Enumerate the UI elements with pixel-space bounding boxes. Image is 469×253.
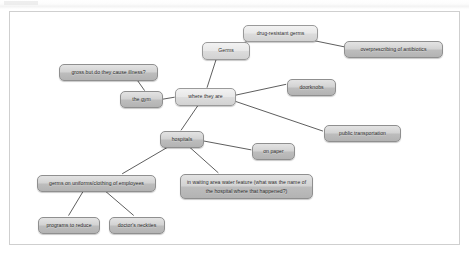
- edge-where_they_are-to-hospitals: [181, 105, 198, 130]
- mind-map-node-germs[interactable]: Germs: [202, 42, 250, 60]
- mind-map-node-programs[interactable]: programs to reduce: [38, 217, 100, 234]
- edge-uniforms-to-neckties: [105, 190, 134, 215]
- edge-hospitals-to-water_feature: [189, 147, 218, 173]
- mind-map-node-overprescribing[interactable]: overprescribing of antibiotics: [344, 41, 443, 58]
- edge-where_they_are-to-doorknobs: [235, 84, 286, 95]
- edge-germs-to-where_they_are: [207, 60, 216, 88]
- edge-hospitals-to-uniforms: [122, 147, 168, 174]
- mind-map-node-on_paper[interactable]: on paper: [252, 143, 295, 160]
- mind-map-node-water_feature[interactable]: in waiting area water feature (what was …: [180, 174, 313, 199]
- mind-map-node-gross_illness[interactable]: gross but do they cause illness?: [59, 64, 158, 81]
- scan-artifact-strip: [0, 0, 469, 9]
- mind-map-node-neckties[interactable]: doctor's neckties: [109, 217, 165, 234]
- mind-map-screenshot: Germsdrug-resistant germsoverprescribing…: [0, 0, 469, 253]
- mind-map-canvas[interactable]: Germsdrug-resistant germsoverprescribing…: [9, 11, 460, 245]
- edge-uniforms-to-programs: [69, 190, 84, 215]
- edge-hospitals-to-on_paper: [203, 141, 251, 150]
- mind-map-node-the_gym[interactable]: the gym: [120, 91, 163, 108]
- edge-where_they_are-to-public_transport: [235, 101, 323, 131]
- mind-map-node-public_transport[interactable]: public transportation: [324, 125, 401, 142]
- edge-gross_illness-to-the_gym: [137, 80, 144, 90]
- scan-smudge: [4, 1, 38, 5]
- mind-map-node-drug_resistant[interactable]: drug-resistant germs: [243, 25, 318, 42]
- mind-map-node-hospitals[interactable]: hospitals: [160, 131, 204, 148]
- mind-map-node-where_they_are[interactable]: where they are: [175, 88, 236, 106]
- mind-map-node-doorknobs[interactable]: doorknobs: [287, 79, 336, 96]
- mind-map-node-uniforms[interactable]: germs on uniforms/clothing of employees: [37, 175, 156, 192]
- edge-the_gym-to-where_they_are: [162, 97, 174, 99]
